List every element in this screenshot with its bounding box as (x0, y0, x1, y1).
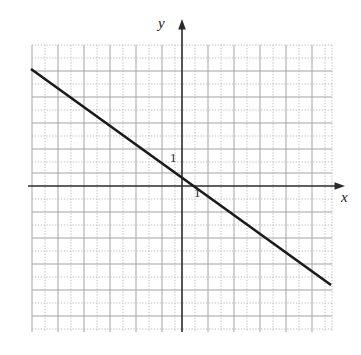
coordinate-plane (0, 0, 361, 355)
y-axis-label: y (158, 16, 165, 31)
y-axis-arrow-icon (178, 19, 186, 30)
y-axis-tick-label-1: 1 (170, 151, 177, 164)
x-axis-tick-label-1: 1 (194, 186, 201, 199)
graph-figure: y x 1 1 (0, 0, 361, 355)
x-axis-label: x (341, 190, 348, 205)
x-axis (28, 182, 345, 190)
